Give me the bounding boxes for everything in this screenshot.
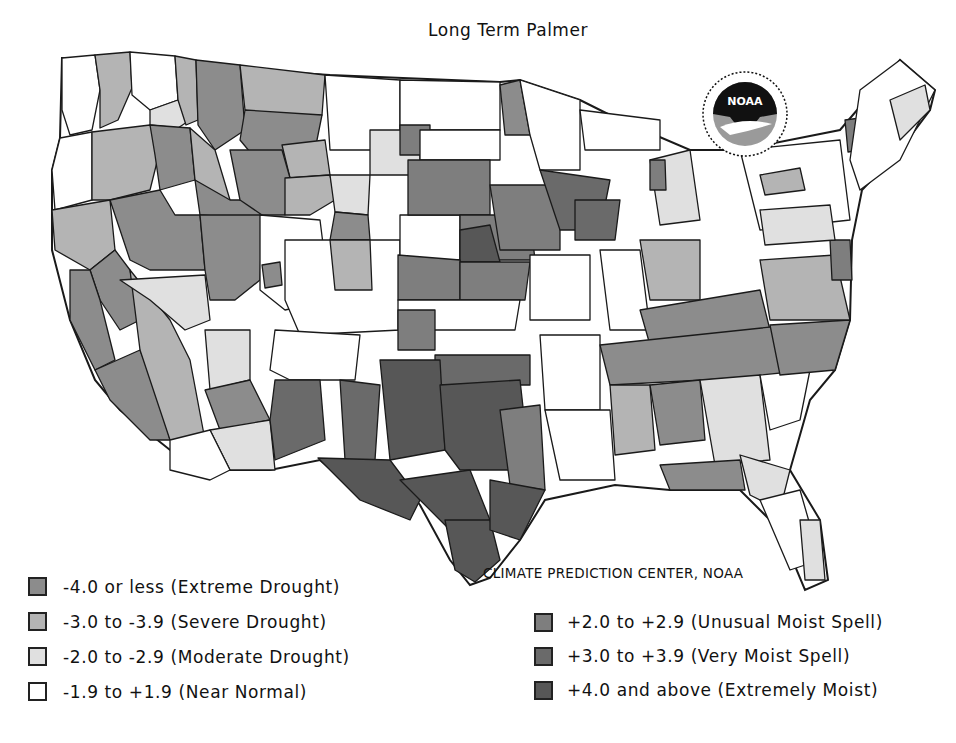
legend-item-very-moist: +3.0 to +3.9 (Very Moist Spell) xyxy=(534,639,883,673)
legend-item-near-normal: -1.9 to +1.9 (Near Normal) xyxy=(28,674,350,709)
region-mississippi xyxy=(610,385,655,455)
region-wisconsin-west xyxy=(575,200,620,240)
region-oklahoma-panhandle xyxy=(398,310,435,350)
region-utah-spot xyxy=(262,262,282,288)
legend-label: +4.0 and above (Extremely Moist) xyxy=(567,680,878,700)
region-indiana-ohio xyxy=(640,240,700,300)
legend-drought: -4.0 or less (Extreme Drought) -3.0 to -… xyxy=(28,569,350,709)
legend-item-moderate-drought: -2.0 to -2.9 (Moderate Drought) xyxy=(28,639,350,674)
legend-label: -3.0 to -3.9 (Severe Drought) xyxy=(63,612,327,632)
region-kansas-west xyxy=(398,255,460,300)
legend-swatch xyxy=(28,682,47,701)
legend-moist: +2.0 to +2.9 (Unusual Moist Spell) +3.0 … xyxy=(534,605,883,707)
region-missouri-north xyxy=(530,255,590,320)
region-kansas-east xyxy=(460,262,530,300)
region-alabama xyxy=(650,380,705,445)
legend-item-unusual-moist: +2.0 to +2.9 (Unusual Moist Spell) xyxy=(534,605,883,639)
region-wyoming-east xyxy=(330,175,370,215)
legend-item-severe-drought: -3.0 to -3.9 (Severe Drought) xyxy=(28,604,350,639)
legend-swatch xyxy=(28,577,47,596)
region-florida-south xyxy=(800,520,825,580)
region-south-dakota-east xyxy=(420,130,500,160)
region-michigan-upper xyxy=(580,110,660,150)
legend-swatch xyxy=(28,612,47,631)
map-title: Long Term Palmer xyxy=(0,20,956,40)
region-colorado-northeast xyxy=(330,240,372,290)
legend-swatch xyxy=(534,613,553,632)
region-michigan-spot xyxy=(650,160,666,190)
region-oregon-central xyxy=(92,125,160,200)
region-wyoming-southeast xyxy=(330,212,370,240)
region-north-carolina xyxy=(770,320,850,375)
legend-label: +2.0 to +2.9 (Unusual Moist Spell) xyxy=(567,612,883,632)
legend-label: -1.9 to +1.9 (Near Normal) xyxy=(63,682,307,702)
region-pennsylvania xyxy=(760,205,835,245)
region-north-dakota-east xyxy=(400,80,500,130)
region-new-mexico-east xyxy=(340,380,380,460)
legend-item-extreme-drought: -4.0 or less (Extreme Drought) xyxy=(28,569,350,604)
region-texas-panhandle xyxy=(380,360,445,460)
region-new-mexico-north xyxy=(270,330,360,380)
legend-label: -2.0 to -2.9 (Moderate Drought) xyxy=(63,647,350,667)
legend-swatch xyxy=(534,647,553,666)
region-maryland-delaware xyxy=(830,240,852,280)
legend-label: +3.0 to +3.9 (Very Moist Spell) xyxy=(567,646,850,666)
noaa-logo: NOAA xyxy=(700,69,790,159)
climate-divisions xyxy=(52,52,935,582)
legend-swatch xyxy=(28,647,47,666)
legend-swatch xyxy=(534,681,553,700)
region-new-england xyxy=(850,60,935,190)
credit-text: CLIMATE PREDICTION CENTER, NOAA xyxy=(483,565,743,581)
region-arkansas xyxy=(540,335,600,410)
region-montana-east xyxy=(282,140,330,178)
legend-label: -4.0 or less (Extreme Drought) xyxy=(63,577,340,597)
region-florida-panhandle xyxy=(660,460,745,490)
legend-item-extremely-moist: +4.0 and above (Extremely Moist) xyxy=(534,673,883,707)
region-nebraska-west xyxy=(400,215,460,260)
region-nebraska-central xyxy=(408,160,490,215)
region-oregon-coast xyxy=(52,132,92,210)
noaa-logo-text: NOAA xyxy=(727,95,763,108)
